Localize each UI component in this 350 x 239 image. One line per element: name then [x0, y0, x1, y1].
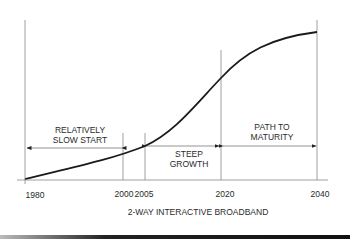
tick-2005: 2005 [135, 189, 154, 199]
phase-label-3a: PATH TO [254, 122, 290, 132]
phase-label-1b: SLOW START [53, 135, 107, 145]
tick-2000: 2000 [115, 189, 134, 199]
bottom-border [0, 235, 350, 239]
tick-2040: 2040 [311, 189, 330, 199]
adoption-curve [25, 32, 317, 179]
tick-1980: 1980 [26, 190, 45, 200]
phase-label-2a: STEEP [175, 149, 203, 159]
phase-label-2b: GROWTH [170, 159, 209, 169]
x-axis-title: 2-WAY INTERACTIVE BROADBAND [128, 207, 269, 217]
phase-label-3b: MATURITY [251, 132, 294, 142]
tick-2020: 2020 [216, 189, 235, 199]
phase-label-1a: RELATIVELY [55, 125, 106, 135]
s-curve-diagram: RELATIVELY SLOW START STEEP GROWTH PATH … [0, 0, 350, 239]
